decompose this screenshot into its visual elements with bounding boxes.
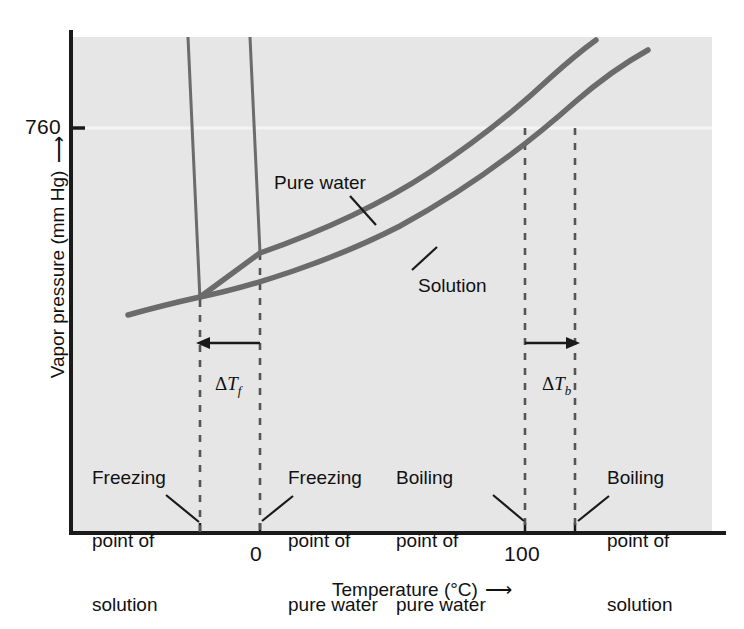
t-symbol-f: T [227,373,238,394]
subscript-f: f [238,383,242,398]
boiling-pure-line3: pure water [396,594,486,615]
y-axis-title: Vapor pressure (mm Hg) ⟶ [44,127,72,387]
freezing-solution-line2: point of [92,530,166,551]
y-axis-title-text: Vapor pressure (mm Hg) [47,171,69,379]
t-symbol-b: T [554,373,565,394]
x-axis-arrow-icon: ⟶ [485,579,512,600]
x-tick-label-0: 0 [250,542,262,566]
curve-label-pure-water: Pure water [274,172,366,193]
freezing-solution-line1: Freezing [92,467,166,488]
freezing-pure-line2: point of [288,530,378,551]
delta-symbol-f: Δ [215,373,227,394]
delta-tf-label: ΔTf [196,352,241,420]
freezing-pure-line3: pure water [288,594,378,615]
delta-symbol-b: Δ [542,373,554,394]
y-axis-arrow-icon: ⟶ [47,136,70,163]
region-label-freezing-point-of-pure-water: Freezing point of pure water [288,424,378,629]
boiling-solution-line1: Boiling [607,467,673,488]
boiling-solution-line2: point of [607,530,673,551]
x-tick-label-100: 100 [504,542,540,566]
region-label-boiling-point-of-solution: Boiling point of solution [607,424,673,629]
freezing-pure-line1: Freezing [288,467,378,488]
region-label-freezing-point-of-solution: Freezing point of solution [92,424,166,629]
boiling-solution-line3: solution [607,594,673,615]
curve-label-solution: Solution [418,275,487,296]
boiling-pure-line2: point of [396,530,486,551]
figure-container: 760 Vapor pressure (mm Hg) ⟶ 0 100 Tempe… [0,0,744,629]
delta-tb-label: ΔTb [523,352,571,420]
boiling-pure-line1: Boiling [396,467,486,488]
region-label-boiling-point-of-pure-water: Boiling point of pure water [396,424,486,629]
subscript-b: b [565,383,572,398]
freezing-solution-line3: solution [92,594,166,615]
